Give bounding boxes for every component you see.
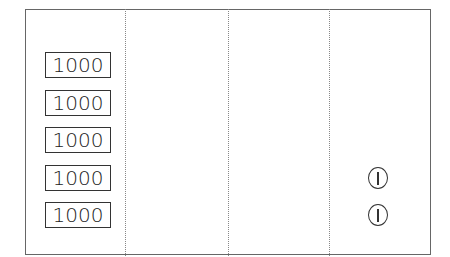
one-coin-icon (368, 167, 388, 189)
thousand-card: 1000 (45, 165, 111, 191)
thousand-card: 1000 (45, 52, 111, 78)
thousand-card: 1000 (45, 202, 111, 228)
thousand-card-label: 1000 (53, 128, 104, 152)
thousand-card-label: 1000 (53, 203, 104, 227)
thousand-card: 1000 (45, 90, 111, 116)
column-divider (329, 9, 330, 256)
thousand-card-label: 1000 (53, 91, 104, 115)
one-coin-icon (368, 204, 388, 226)
thousand-card: 1000 (45, 127, 111, 153)
thousand-card-label: 1000 (53, 166, 104, 190)
thousand-card-label: 1000 (53, 53, 104, 77)
column-divider (228, 9, 229, 256)
column-divider (125, 9, 126, 256)
